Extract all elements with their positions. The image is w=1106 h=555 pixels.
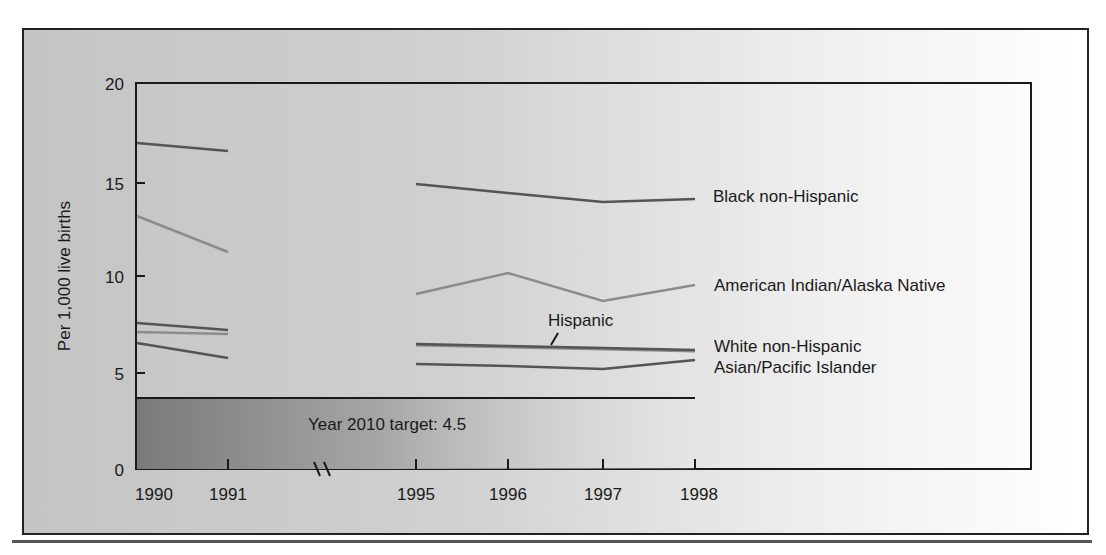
x-tick-1996: 1996 <box>489 485 527 504</box>
label-black: Black non-Hispanic <box>713 187 859 206</box>
y-tick-10: 10 <box>105 268 124 287</box>
series-aian-1990s <box>137 216 228 252</box>
label-white: White non-Hispanic <box>714 337 862 356</box>
y-tick-0: 0 <box>115 461 124 480</box>
target-label: Year 2010 target: 4.5 <box>308 415 466 434</box>
series-aian <box>416 273 695 301</box>
series-hispanic-1990s <box>137 332 228 334</box>
x-tick-1990: 1990 <box>135 485 173 504</box>
y-axis-label: Per 1,000 live births <box>55 201 74 351</box>
y-axis: 20 15 10 5 0 Per 1,000 live births <box>55 75 145 480</box>
x-tick-1995: 1995 <box>397 485 435 504</box>
y-tick-20: 20 <box>105 75 124 94</box>
x-tick-1997: 1997 <box>584 485 622 504</box>
series-black <box>416 184 695 202</box>
series-black-1990s <box>137 143 228 151</box>
hispanic-callout-pointer <box>551 333 558 345</box>
series-white-1990s <box>137 323 228 330</box>
x-tick-1991: 1991 <box>209 485 247 504</box>
series-asian-1990s <box>137 343 228 358</box>
series-lines <box>137 143 695 369</box>
line-chart: Year 2010 target: 4.5 20 15 10 5 0 Per 1… <box>0 0 1106 555</box>
series-asian <box>416 360 695 369</box>
y-tick-15: 15 <box>105 175 124 194</box>
label-aian: American Indian/Alaska Native <box>714 276 946 295</box>
label-asian: Asian/Pacific Islander <box>714 358 877 377</box>
x-tick-1998: 1998 <box>680 485 718 504</box>
hispanic-label: Hispanic <box>548 311 614 330</box>
y-tick-5: 5 <box>115 365 124 384</box>
